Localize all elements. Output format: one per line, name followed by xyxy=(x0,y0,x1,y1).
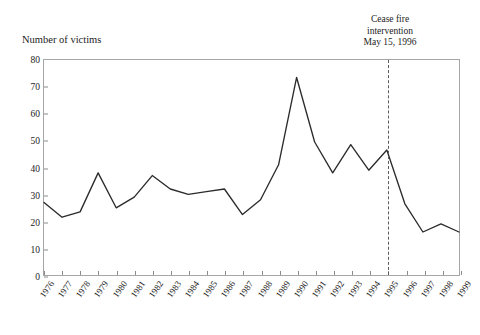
x-tick-mark-1992 xyxy=(334,271,335,275)
event-annotation-line-3: May 15, 1996 xyxy=(330,37,450,49)
y-tick-label-50: 50 xyxy=(31,136,41,146)
x-tick-mark-1982 xyxy=(153,271,154,275)
x-tick-mark-1978 xyxy=(80,271,81,275)
x-tick-mark-1980 xyxy=(117,271,118,275)
y-tick-mark-50 xyxy=(44,141,48,142)
x-tick-mark-1977 xyxy=(62,271,63,275)
x-tick-label-1988: 1988 xyxy=(255,279,274,299)
x-tick-mark-1998 xyxy=(443,271,444,275)
y-tick-label-70: 70 xyxy=(31,82,41,92)
x-tick-label-1992: 1992 xyxy=(328,279,347,299)
x-tick-mark-1988 xyxy=(262,271,263,275)
y-tick-mark-60 xyxy=(44,114,48,115)
x-tick-label-1995: 1995 xyxy=(382,279,401,299)
x-tick-label-1979: 1979 xyxy=(92,279,111,299)
y-tick-mark-40 xyxy=(44,168,48,169)
event-marker-line xyxy=(388,60,389,275)
y-tick-label-0: 0 xyxy=(35,272,40,282)
x-tick-label-1986: 1986 xyxy=(219,279,238,299)
x-tick-label-1985: 1985 xyxy=(201,279,220,299)
y-axis-title: Number of victims xyxy=(22,34,101,45)
event-annotation-line-2: intervention xyxy=(330,26,450,38)
x-tick-mark-1981 xyxy=(135,271,136,275)
x-tick-mark-1986 xyxy=(225,271,226,275)
y-tick-label-60: 60 xyxy=(31,109,41,119)
y-tick-mark-0 xyxy=(44,277,48,278)
x-tick-label-1982: 1982 xyxy=(146,279,165,299)
x-tick-label-1998: 1998 xyxy=(437,279,456,299)
x-tick-mark-1985 xyxy=(207,271,208,275)
x-tick-label-1996: 1996 xyxy=(400,279,419,299)
victims-line-series xyxy=(44,77,459,232)
x-tick-label-1994: 1994 xyxy=(364,279,383,299)
x-tick-mark-1993 xyxy=(352,271,353,275)
x-tick-mark-1996 xyxy=(407,271,408,275)
y-tick-mark-10 xyxy=(44,249,48,250)
y-tick-mark-20 xyxy=(44,222,48,223)
y-tick-label-40: 40 xyxy=(31,164,41,174)
x-tick-label-1978: 1978 xyxy=(74,279,93,299)
x-tick-label-1990: 1990 xyxy=(291,279,310,299)
x-tick-label-1987: 1987 xyxy=(237,279,256,299)
plot-area: 0102030405060708019761977197819791980198… xyxy=(43,59,460,276)
x-tick-mark-1987 xyxy=(243,271,244,275)
y-tick-mark-30 xyxy=(44,195,48,196)
x-tick-label-1984: 1984 xyxy=(183,279,202,299)
y-tick-label-80: 80 xyxy=(31,55,41,65)
x-tick-mark-1997 xyxy=(425,271,426,275)
y-tick-mark-70 xyxy=(44,87,48,88)
event-annotation-line-1: Cease fire xyxy=(330,14,450,26)
x-tick-label-1991: 1991 xyxy=(310,279,329,299)
chart-page: Cease fire intervention May 15, 1996 Num… xyxy=(0,0,480,335)
x-tick-label-1999: 1999 xyxy=(455,279,474,299)
y-tick-label-20: 20 xyxy=(31,218,41,228)
x-tick-label-1976: 1976 xyxy=(38,279,57,299)
y-tick-label-30: 30 xyxy=(31,191,41,201)
x-tick-label-1993: 1993 xyxy=(346,279,365,299)
x-tick-mark-1983 xyxy=(171,271,172,275)
x-tick-mark-1999 xyxy=(461,271,462,275)
y-tick-label-10: 10 xyxy=(31,245,41,255)
x-tick-label-1989: 1989 xyxy=(273,279,292,299)
x-tick-mark-1984 xyxy=(189,271,190,275)
x-tick-mark-1979 xyxy=(98,271,99,275)
x-tick-mark-1976 xyxy=(44,271,45,275)
x-tick-label-1980: 1980 xyxy=(110,279,129,299)
x-tick-label-1977: 1977 xyxy=(56,279,75,299)
x-tick-mark-1994 xyxy=(370,271,371,275)
x-tick-label-1983: 1983 xyxy=(165,279,184,299)
x-tick-mark-1990 xyxy=(298,271,299,275)
x-tick-mark-1991 xyxy=(316,271,317,275)
series-svg xyxy=(44,60,459,275)
x-tick-mark-1989 xyxy=(280,271,281,275)
x-tick-label-1997: 1997 xyxy=(418,279,437,299)
x-tick-label-1981: 1981 xyxy=(128,279,147,299)
event-annotation: Cease fire intervention May 15, 1996 xyxy=(330,14,450,49)
